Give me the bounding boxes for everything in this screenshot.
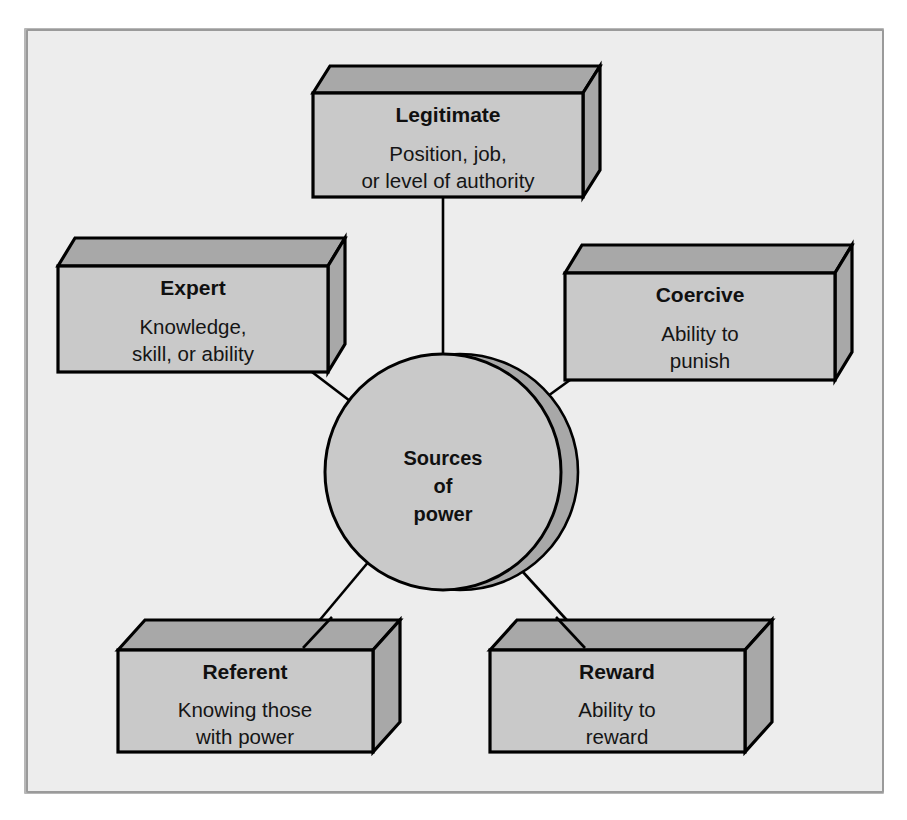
hub-label-line1: Sources — [404, 447, 483, 469]
expert-desc-line1: Knowledge, — [139, 315, 246, 338]
reward-title: Reward — [579, 660, 655, 683]
referent-title: Referent — [202, 660, 287, 683]
legitimate-desc-line2: or level of authority — [361, 169, 535, 192]
coercive-desc-line2: punish — [670, 349, 730, 372]
expert-desc-line2: skill, or ability — [132, 342, 255, 365]
referent-desc-line1: Knowing those — [178, 698, 312, 721]
expert-title: Expert — [160, 276, 225, 299]
hub-label-line3: power — [414, 503, 473, 525]
node-legitimate[interactable]: Legitimate Position, job, or level of au… — [313, 66, 600, 197]
coercive-box-top-face — [565, 245, 852, 273]
legitimate-title: Legitimate — [395, 103, 500, 126]
reward-desc-line1: Ability to — [578, 698, 655, 721]
node-coercive[interactable]: Coercive Ability to punish — [565, 245, 852, 380]
node-expert[interactable]: Expert Knowledge, skill, or ability — [58, 238, 345, 372]
coercive-desc-line1: Ability to — [661, 322, 738, 345]
reward-desc-line2: reward — [586, 725, 649, 748]
node-referent[interactable]: Referent Knowing those with power — [118, 620, 400, 752]
coercive-title: Coercive — [656, 283, 745, 306]
legitimate-box-top-face — [313, 66, 600, 93]
hub-label-line2: of — [434, 475, 453, 497]
diagram-canvas: Sources of power Legitimate Position, jo… — [0, 0, 907, 820]
legitimate-desc-line1: Position, job, — [389, 142, 506, 165]
hub-node[interactable]: Sources of power — [325, 354, 578, 590]
sources-of-power-diagram: Sources of power Legitimate Position, jo… — [0, 0, 907, 820]
expert-box-top-face — [58, 238, 345, 266]
hub-circle — [325, 354, 561, 590]
referent-box-top-face — [118, 620, 400, 650]
node-reward[interactable]: Reward Ability to reward — [490, 620, 772, 752]
referent-desc-line2: with power — [195, 725, 294, 748]
reward-box-top-face — [490, 620, 772, 650]
